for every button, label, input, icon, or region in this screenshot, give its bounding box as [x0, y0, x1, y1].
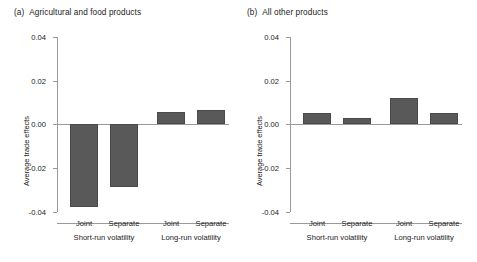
- panel-b-tag: (b): [247, 8, 257, 17]
- panel-b-cat-label-2: Joint: [396, 219, 412, 228]
- panel-a-tick-4: -0.04: [53, 212, 57, 213]
- panel-b-group-label-long-run: Long-run volatility: [394, 233, 454, 242]
- panel-b-cat-label-1: Separate: [342, 219, 373, 228]
- panel-a-title-text: Agricultural and food products: [29, 8, 141, 17]
- panel-b-zero-line: [290, 124, 462, 125]
- panel-a-tick-2: 0.00: [53, 124, 57, 125]
- panel-a-tag: (a): [14, 8, 24, 17]
- panel-a-bar-short-joint: [70, 124, 98, 207]
- panel-b-tick-label-2: 0.00: [264, 120, 279, 129]
- panel-a-title: (a)Agricultural and food products: [14, 8, 141, 17]
- panel-a-group-label-long-run: Long-run volatility: [161, 233, 221, 242]
- panel-a-tick-label-4: -0.04: [29, 208, 46, 217]
- panel-b-group-label-short-run: Short-run volatility: [307, 233, 368, 242]
- panel-b-title-text: All other products: [262, 8, 328, 17]
- panel-a-group-label-short-run: Short-run volatility: [74, 233, 135, 242]
- panel-b-cat-label-0: Joint: [309, 219, 325, 228]
- panel-b-tick-4: -0.04: [286, 212, 290, 213]
- panel-a-tick-3: -0.02: [53, 168, 57, 169]
- figure: (a)Agricultural and food products Averag…: [0, 0, 477, 262]
- panel-a-y-axis-label: Average trade effects: [22, 116, 31, 186]
- panel-a-tick-label-3: -0.02: [29, 164, 46, 173]
- panel-a-plot-area: 0.04 0.02 0.00 -0.02 -0.04 Joint Separat…: [57, 37, 229, 212]
- panel-b-bar-long-joint: [390, 98, 418, 124]
- panel-a-tick-1: 0.02: [53, 81, 57, 82]
- panel-b-tick-label-1: 0.02: [264, 76, 279, 85]
- panel-b-title: (b)All other products: [247, 8, 328, 17]
- panel-a-cat-label-3: Separate: [196, 219, 227, 228]
- panel-b-bar-long-separate: [430, 113, 458, 124]
- panel-b-tick-label-3: -0.02: [262, 164, 279, 173]
- panel-a-cat-label-1: Separate: [109, 219, 140, 228]
- panel-b-bar-short-joint: [303, 113, 331, 124]
- panel-b-plot-area: 0.04 0.02 0.00 -0.02 -0.04 Joint Separat…: [290, 37, 462, 212]
- panel-a-tick-label-2: 0.00: [31, 120, 46, 129]
- panel-a-bar-long-joint: [157, 112, 185, 124]
- panel-b-tick-1: 0.02: [286, 81, 290, 82]
- panel-a-cat-label-2: Joint: [163, 219, 179, 228]
- panel-b-bar-short-separate: [343, 118, 371, 124]
- panel-b-cat-label-3: Separate: [429, 219, 460, 228]
- panel-b-tick-3: -0.02: [286, 168, 290, 169]
- panel-b-tick-2: 0.00: [286, 124, 290, 125]
- panel-a-bar-long-separate: [197, 110, 225, 124]
- panel-b-tick-0: 0.04: [286, 37, 290, 38]
- panel-a-tick-label-0: 0.04: [31, 33, 46, 42]
- panel-a-tick-label-1: 0.02: [31, 76, 46, 85]
- panel-agricultural-and-food-products: (a)Agricultural and food products Averag…: [0, 0, 238, 262]
- panel-b-tick-label-4: -0.04: [262, 208, 279, 217]
- panel-a-bar-short-separate: [110, 124, 138, 187]
- panel-b-tick-label-0: 0.04: [264, 33, 279, 42]
- panel-b-y-axis-label: Average trade effects: [255, 116, 264, 186]
- panel-a-cat-label-0: Joint: [76, 219, 92, 228]
- panel-all-other-products: (b)All other products Average trade effe…: [239, 0, 477, 262]
- panel-a-tick-0: 0.04: [53, 37, 57, 38]
